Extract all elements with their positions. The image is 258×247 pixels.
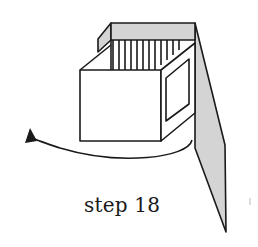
step-caption: step 18	[84, 193, 160, 217]
top-band	[111, 23, 195, 40]
long-flap	[195, 23, 226, 232]
left-tab	[98, 23, 111, 52]
front-face	[80, 70, 161, 141]
arrow-head-icon	[25, 128, 37, 143]
